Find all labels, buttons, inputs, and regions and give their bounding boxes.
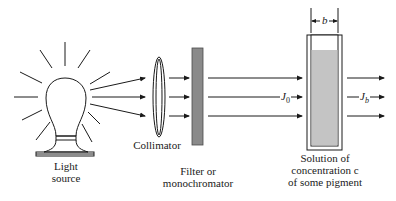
collimator-label-text: Collimator: [122, 139, 192, 151]
light-source-label-line2: source: [40, 172, 92, 184]
solution-label-line2: concentration c: [279, 164, 371, 176]
filter-label-line1: Filter or: [158, 165, 238, 177]
cuvette: [307, 35, 342, 150]
path-length-symbol: b: [321, 15, 329, 26]
collimator-label: Collimator: [122, 139, 192, 151]
solution-label-line3: of some pigment: [279, 176, 371, 188]
light-source-label-line1: Light: [40, 160, 92, 172]
solution-label-line1: Solution of: [279, 152, 371, 164]
diverging-rays: [90, 78, 145, 116]
filter-plate: [192, 48, 203, 145]
solution-label: Solution of concentration c of some pigm…: [279, 152, 371, 188]
collimator-lens-icon: [153, 57, 165, 137]
spectrophotometer-diagram: J0 Jb b Light source Collimator Filter o…: [0, 0, 396, 201]
incident-intensity-symbol: J0: [280, 91, 291, 106]
filter-label-line2: monochromator: [158, 177, 238, 189]
pigment-solution: [312, 50, 338, 146]
light-source-label: Light source: [40, 160, 92, 184]
collimated-rays: [169, 78, 189, 116]
transmitted-intensity-symbol: Jb: [359, 91, 370, 106]
filter-label: Filter or monochromator: [158, 165, 238, 189]
light-bulb-icon: [14, 42, 110, 156]
